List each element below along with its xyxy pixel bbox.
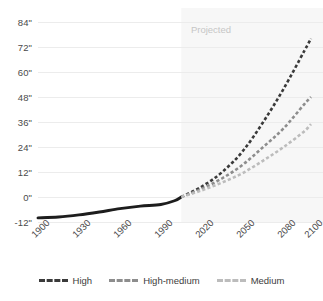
x-tick-label: 2050 [234,217,257,240]
x-axis-labels: 19001930196019902020205020802100 [0,0,323,301]
chart-legend: HighHigh-mediumMedium [0,276,323,286]
legend-label: Medium [251,276,285,286]
legend-swatch-icon [217,279,246,282]
legend-label: High-medium [143,276,200,286]
sea-level-rise-chart: -12"0"12"24"36"48"60"72"84" 190019301960… [0,0,323,301]
legend-item-medium[interactable]: Medium [217,276,285,286]
x-tick-label: 1900 [29,217,52,240]
x-tick-label: 2080 [275,217,298,240]
x-tick-label: 1960 [111,217,134,240]
projected-annotation: Projected [191,24,231,35]
legend-item-high[interactable]: High [39,276,93,286]
legend-swatch-icon [109,279,138,282]
x-tick-label: 2020 [193,217,216,240]
legend-item-high-medium[interactable]: High-medium [109,276,200,286]
x-tick-label: 2100 [302,217,323,240]
legend-swatch-icon [39,279,68,282]
x-tick-label: 1990 [152,217,175,240]
x-tick-label: 1930 [70,217,93,240]
legend-label: High [73,276,93,286]
